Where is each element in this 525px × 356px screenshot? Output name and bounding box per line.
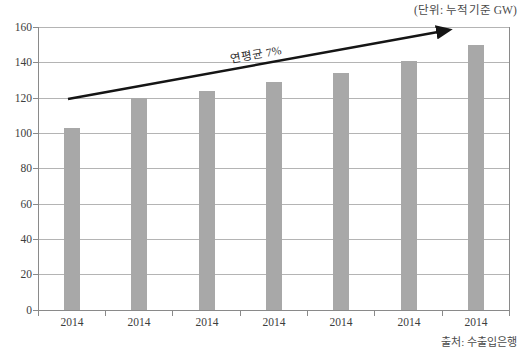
- x-tickmark-5: [374, 310, 375, 316]
- y-tick-label-160: 160: [0, 22, 32, 34]
- x-axis-line: [38, 310, 510, 311]
- x-tick-label-3: 2014: [244, 317, 304, 329]
- y-tickmark-120: [33, 98, 38, 99]
- bar-5[interactable]: [401, 61, 417, 310]
- x-tick-label-6: 2014: [446, 317, 506, 329]
- x-tick-label-1: 2014: [109, 317, 169, 329]
- y-tickmark-140: [33, 62, 38, 63]
- y-tick-label-0: 0: [0, 305, 32, 317]
- y-tickmark-100: [33, 133, 38, 134]
- x-tickmark-4: [307, 310, 308, 316]
- x-tickmark-6: [442, 310, 443, 316]
- x-tickmark-0: [38, 310, 39, 316]
- x-tickmark-2: [172, 310, 173, 316]
- bar-6[interactable]: [468, 45, 484, 310]
- y-tick-label-140: 140: [0, 57, 32, 69]
- y-tick-label-120: 120: [0, 93, 32, 105]
- x-tick-label-5: 2014: [379, 317, 439, 329]
- x-tickmark-1: [105, 310, 106, 316]
- unit-label: (단위: 누적기준 GW): [414, 1, 517, 17]
- y-tick-label-100: 100: [0, 128, 32, 140]
- y-tickmark-60: [33, 204, 38, 205]
- bar-2[interactable]: [199, 91, 215, 310]
- x-tick-label-0: 2014: [42, 317, 102, 329]
- y-tick-label-40: 40: [0, 234, 32, 246]
- gridline-140: [38, 62, 510, 63]
- plot-right-edge: [509, 27, 510, 311]
- y-tick-label-20: 20: [0, 269, 32, 281]
- bar-0[interactable]: [64, 128, 80, 310]
- source-label: 출처: 수출입은행: [441, 333, 517, 349]
- y-tickmark-20: [33, 274, 38, 275]
- y-tick-label-80: 80: [0, 163, 32, 175]
- bar-1[interactable]: [131, 98, 147, 310]
- y-tickmark-80: [33, 168, 38, 169]
- bar-3[interactable]: [266, 82, 282, 310]
- y-tick-label-60: 60: [0, 199, 32, 211]
- x-tickmark-7: [509, 310, 510, 316]
- y-tickmark-160: [33, 27, 38, 28]
- bar-4[interactable]: [333, 73, 349, 310]
- gridline-160: [38, 27, 510, 28]
- x-tick-label-2: 2014: [177, 317, 237, 329]
- y-axis-line: [38, 27, 39, 311]
- x-tick-label-4: 2014: [311, 317, 371, 329]
- y-tickmark-40: [33, 239, 38, 240]
- x-tickmark-3: [240, 310, 241, 316]
- bar-chart: (단위: 누적기준 GW) 160 140 120 100 80 60 40 2…: [0, 0, 525, 356]
